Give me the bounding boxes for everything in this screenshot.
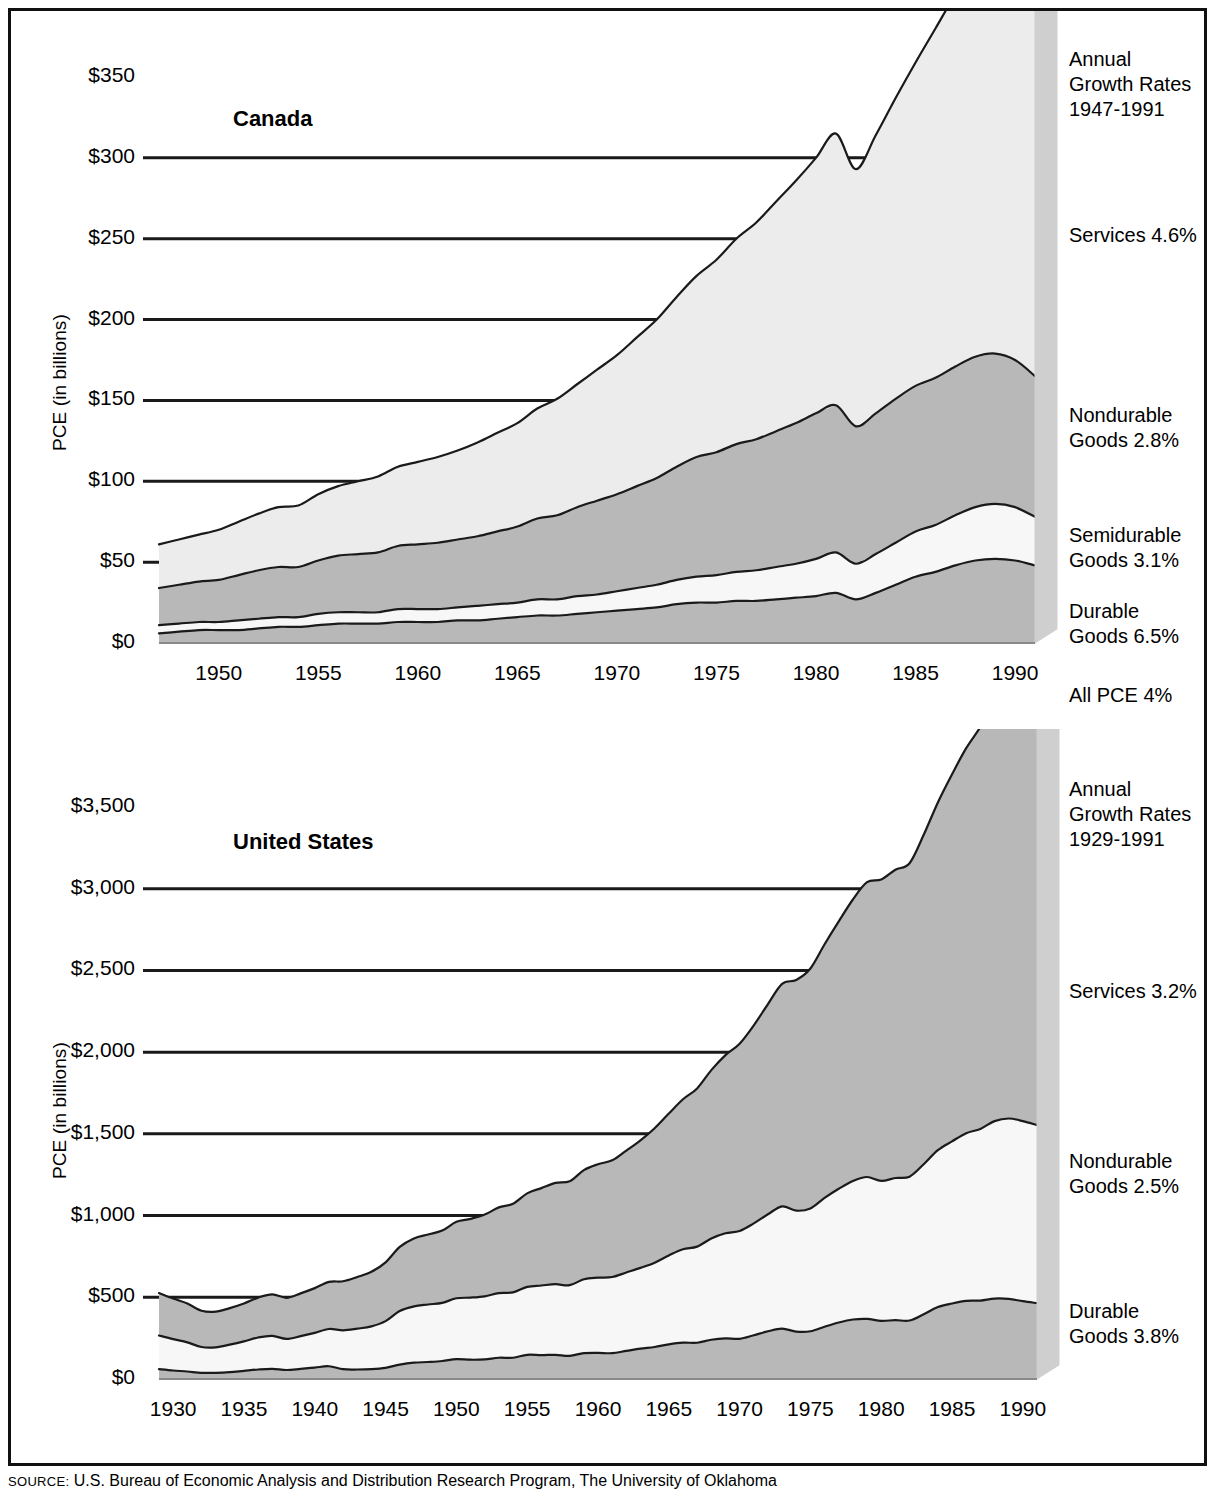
canada-legend-all-pce: All PCE 4% [1069, 683, 1172, 708]
canada-y-tick: $50 [31, 548, 135, 572]
source-text: U.S. Bureau of Economic Analysis and Dis… [69, 1472, 777, 1489]
us-y-tick: $500 [31, 1283, 135, 1307]
us-legend-nondurable: Nondurable Goods 2.5% [1069, 1149, 1179, 1199]
us-y-tick: $3,500 [31, 793, 135, 817]
canada-y-tick: $350 [31, 63, 135, 87]
canada-legend-durable: Durable Goods 6.5% [1069, 599, 1179, 649]
canada-y-tick: $100 [31, 467, 135, 491]
canada-x-tick: 1960 [373, 661, 463, 685]
canada-y-tick: $0 [31, 629, 135, 653]
canada-y-tick: $150 [31, 386, 135, 410]
us-chart-title: United States [233, 829, 374, 855]
us-y-tick: $3,000 [31, 875, 135, 899]
canada-y-axis-label: PCE (in billions) [49, 314, 71, 451]
canada-legend-title: Annual Growth Rates 1947-1991 [1069, 47, 1191, 122]
canada-x-tick: 1950 [174, 661, 264, 685]
chart-panel-united-states: PCE (in billions) United States Annual G… [11, 729, 1204, 1463]
us-y-tick: $1,000 [31, 1202, 135, 1226]
us-legend-title: Annual Growth Rates 1929-1991 [1069, 777, 1191, 852]
canada-x-tick: 1975 [671, 661, 761, 685]
us-x-tick: 1990 [978, 1397, 1068, 1421]
canada-x-tick: 1985 [871, 661, 961, 685]
us-legend-durable: Durable Goods 3.8% [1069, 1299, 1179, 1349]
source-label: SOURCE: [8, 1474, 69, 1489]
canada-legend-services: Services 4.6% [1069, 223, 1197, 248]
canada-plot-area [11, 11, 1204, 729]
us-y-axis-label: PCE (in billions) [49, 1042, 71, 1179]
canada-chart-title: Canada [233, 106, 312, 132]
us-y-tick: $0 [31, 1365, 135, 1389]
united-states-plot-area [11, 729, 1204, 1463]
canada-legend-semidurable: Semidurable Goods 3.1% [1069, 523, 1181, 573]
canada-x-tick: 1955 [273, 661, 363, 685]
canada-legend-nondurable: Nondurable Goods 2.8% [1069, 403, 1179, 453]
figure-frame: PCE (in billions) Canada Annual Growth R… [8, 8, 1207, 1466]
canada-y-tick: $200 [31, 306, 135, 330]
canada-y-tick: $300 [31, 144, 135, 168]
canada-x-tick: 1980 [771, 661, 861, 685]
source-note: SOURCE: U.S. Bureau of Economic Analysis… [8, 1472, 777, 1490]
us-y-tick: $2,500 [31, 956, 135, 980]
canada-x-tick: 1965 [472, 661, 562, 685]
us-legend-services: Services 3.2% [1069, 979, 1197, 1004]
us-y-tick: $2,000 [31, 1038, 135, 1062]
us-y-tick: $1,500 [31, 1120, 135, 1144]
chart-panel-canada: PCE (in billions) Canada Annual Growth R… [11, 11, 1204, 729]
canada-x-tick: 1970 [572, 661, 662, 685]
canada-x-tick: 1990 [970, 661, 1060, 685]
canada-y-tick: $250 [31, 225, 135, 249]
